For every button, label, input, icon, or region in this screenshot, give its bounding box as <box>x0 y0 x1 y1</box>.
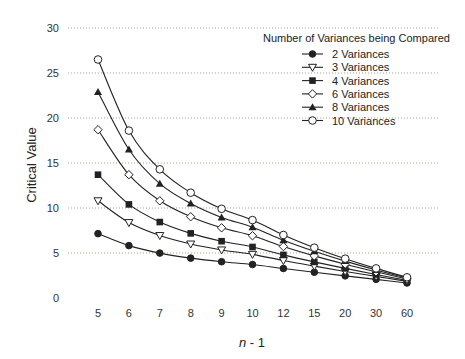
filled-square-marker-icon <box>157 219 164 226</box>
x-tick-label: 30 <box>370 307 382 319</box>
critical-value-chart: 051015202530 56789101215203060 Critical … <box>0 0 465 359</box>
open-circle-marker-icon <box>309 117 317 125</box>
x-tick-label: 8 <box>188 307 194 319</box>
series-line <box>98 201 407 282</box>
open-diamond-marker-icon <box>248 232 256 240</box>
filled-square-marker-icon <box>218 238 225 245</box>
open-circle-marker-icon <box>187 189 195 197</box>
legend: Number of Variances being Compared 2 Var… <box>263 32 450 127</box>
open-diamond-marker-icon <box>217 224 225 232</box>
open-diamond-marker-icon <box>279 242 287 250</box>
y-tick-label: 20 <box>47 112 59 124</box>
open-diamond-marker-icon <box>94 126 102 134</box>
x-tick-label: 10 <box>246 307 258 319</box>
open-circle-marker-icon <box>280 231 288 239</box>
open-circle-marker-icon <box>94 56 102 64</box>
x-axis-title-italic: n <box>239 335 246 350</box>
y-tick-label: 10 <box>47 202 59 214</box>
filled-circle-marker-icon <box>309 51 316 58</box>
filled-circle-marker-icon <box>218 258 225 265</box>
filled-square-marker-icon <box>280 252 287 259</box>
filled-square-marker-icon <box>309 77 316 84</box>
open-circle-marker-icon <box>311 244 319 252</box>
filled-circle-marker-icon <box>280 265 287 272</box>
filled-triangle-marker-icon <box>125 146 133 153</box>
y-tick-label: 30 <box>47 22 59 34</box>
y-tick-label: 15 <box>47 157 59 169</box>
filled-circle-marker-icon <box>157 250 164 257</box>
open-diamond-marker-icon <box>308 90 316 98</box>
legend-label: 10 Variances <box>332 115 396 127</box>
x-tick-label: 5 <box>95 307 101 319</box>
filled-square-marker-icon <box>249 244 256 251</box>
filled-square-marker-icon <box>126 201 133 208</box>
legend-item: 8 Variances <box>302 101 390 113</box>
open-diamond-marker-icon <box>156 197 164 205</box>
open-circle-marker-icon <box>218 205 226 213</box>
filled-triangle-marker-icon <box>94 88 102 95</box>
open-triangle-marker-icon <box>94 198 102 205</box>
legend-label: 3 Variances <box>332 61 390 73</box>
y-tick-label: 25 <box>47 67 59 79</box>
x-axis-title-rest: - 1 <box>246 335 265 350</box>
y-tick-label: 0 <box>53 292 59 304</box>
open-triangle-marker-icon <box>125 220 133 227</box>
x-axis-ticks: 56789101215203060 <box>95 307 413 319</box>
x-tick-label: 60 <box>401 307 413 319</box>
y-tick-label: 5 <box>53 247 59 259</box>
x-tick-label: 9 <box>219 307 225 319</box>
legend-label: 6 Variances <box>332 88 390 100</box>
x-tick-label: 20 <box>339 307 351 319</box>
x-tick-label: 12 <box>277 307 289 319</box>
legend-title: Number of Variances being Compared <box>263 32 450 44</box>
open-circle-marker-icon <box>125 127 133 135</box>
y-axis-title: Critical Value <box>24 127 39 203</box>
open-circle-marker-icon <box>372 265 380 273</box>
legend-label: 4 Variances <box>332 75 390 87</box>
legend-item: 4 Variances <box>302 75 390 87</box>
filled-triangle-marker-icon <box>187 200 195 207</box>
filled-circle-marker-icon <box>187 255 194 262</box>
filled-circle-marker-icon <box>95 230 102 237</box>
legend-item: 10 Variances <box>302 115 396 127</box>
legend-label: 8 Variances <box>332 101 390 113</box>
filled-circle-marker-icon <box>126 242 133 249</box>
legend-item: 3 Variances <box>302 61 390 73</box>
legend-item: 2 Variances <box>302 48 390 60</box>
legend-label: 2 Variances <box>332 48 390 60</box>
open-circle-marker-icon <box>156 166 164 174</box>
open-circle-marker-icon <box>403 274 411 282</box>
x-tick-label: 6 <box>126 307 132 319</box>
filled-square-marker-icon <box>187 230 194 237</box>
open-circle-marker-icon <box>249 216 257 224</box>
legend-item: 6 Variances <box>302 88 390 100</box>
filled-circle-marker-icon <box>249 261 256 268</box>
x-tick-label: 7 <box>157 307 163 319</box>
y-axis-ticks: 051015202530 <box>47 22 59 304</box>
open-diamond-marker-icon <box>187 213 195 221</box>
x-tick-label: 15 <box>308 307 320 319</box>
x-axis-title: n - 1 <box>239 335 265 350</box>
open-circle-marker-icon <box>341 255 349 263</box>
filled-square-marker-icon <box>95 171 102 178</box>
